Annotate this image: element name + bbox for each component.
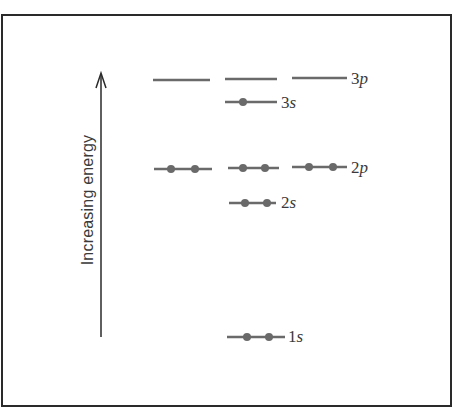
energy-arrow-svg (0, 0, 461, 408)
electron-dot-icon (329, 163, 337, 171)
label-1s-l: s (297, 327, 304, 346)
label-2p: 2p (351, 159, 368, 176)
label-3s: 3s (281, 94, 296, 111)
label-3s-l: s (290, 93, 297, 112)
energy-axis-label: Increasing energy (79, 135, 97, 266)
label-2p-l: p (360, 158, 369, 177)
label-3p-n: 3 (351, 69, 360, 88)
label-3s-n: 3 (281, 93, 290, 112)
electron-dot-icon (239, 98, 247, 106)
electron-dot-icon (263, 199, 271, 207)
electron-dot-icon (191, 165, 199, 173)
label-2s-l: s (290, 193, 297, 212)
label-2s-n: 2 (281, 193, 290, 212)
electron-dot-icon (261, 164, 269, 172)
label-1s: 1s (288, 328, 303, 345)
electron-dot-icon (241, 199, 249, 207)
electron-dot-icon (265, 333, 273, 341)
electron-dot-icon (239, 164, 247, 172)
orbital-levels (153, 78, 347, 341)
label-2p-n: 2 (351, 158, 360, 177)
label-1s-n: 1 (288, 327, 297, 346)
label-3p: 3p (351, 70, 368, 87)
electron-dot-icon (243, 333, 251, 341)
orbital-diagram: Increasing energy 3p 3s 2p 2s 1s (0, 0, 461, 408)
label-2s: 2s (281, 194, 296, 211)
electron-dot-icon (305, 163, 313, 171)
label-3p-l: p (360, 69, 369, 88)
electron-dot-icon (167, 165, 175, 173)
